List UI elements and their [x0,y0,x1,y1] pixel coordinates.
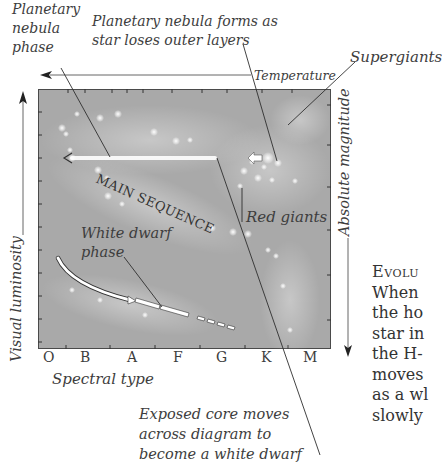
spectral-class-K: K [261,349,271,365]
body-line: slowly [372,406,428,427]
spectral-class-F: F [173,349,183,365]
body-line: star in [372,324,428,345]
body-line: as a wl [372,385,428,406]
body-line: the ho [372,303,428,324]
planetary-nebula-phase-label: Planetary nebula phase [12,0,80,57]
top-ticks [68,89,292,93]
body-line: the H- [372,344,428,365]
exposed-core-label: Exposed core moves across diagram to bec… [139,404,302,464]
supergiants-label: Supergiants [350,48,442,67]
body-line: When [372,283,428,304]
absolute-magnitude-label: Absolute magnitude [336,88,352,236]
spectral-class-G: G [216,349,227,365]
visual-luminosity-label: Visual luminosity [8,236,24,362]
right-ticks [327,105,331,320]
temperature-label: Temperature [254,66,336,85]
spectral-class-B: B [80,349,90,365]
spectral-type-label: Spectral type [52,370,154,389]
spectral-class-A: A [127,349,137,365]
white-dwarf-phase-label: White dwarf phase [81,224,172,262]
spectral-class-O: O [43,349,54,365]
red-giants-label: Red giants [246,208,327,227]
body-heading: Evolu [372,262,428,283]
planetary-nebula-forms-label: Planetary nebula forms as star loses out… [92,12,278,50]
spectral-class-M: M [303,349,317,365]
body-text-column: Evolu When the ho star in the H- moves a… [372,262,428,426]
body-line: moves [372,365,428,386]
left-ticks [38,112,42,342]
